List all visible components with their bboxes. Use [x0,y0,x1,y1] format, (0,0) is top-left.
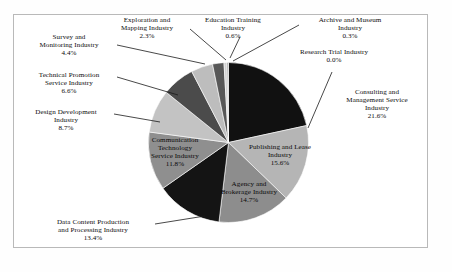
label-line-1: Consulting and [355,88,399,96]
label-line-1: Design Development [35,108,96,116]
label-percent: 0.0% [282,56,386,64]
chart-canvas: Exploration and Mapping Industry 2.3% Ed… [0,0,452,272]
label-consulting-management: Consulting and Management Service Indust… [330,88,424,120]
label-line-2: Service Industry [45,79,93,87]
label-line-2: Technology [158,144,192,152]
label-line-2: Management Service [346,96,407,104]
label-line-1: Archive and Museum [319,16,382,24]
label-line-1: Communication [152,136,199,144]
label-percent: 0.3% [301,32,399,40]
label-line-1: Publishing and Lease [249,143,311,151]
label-line-2: Monitoring Industry [39,41,98,49]
label-percent: 21.6% [330,112,424,120]
label-percent: 15.6% [236,159,324,167]
label-line-1: Exploration and [124,16,171,24]
label-publishing-lease: Publishing and Lease Industry 15.6% [236,143,324,167]
label-line-1: Data Content Production [57,218,129,226]
label-line-1: Education Training [205,16,261,24]
label-percent: 2.3% [105,32,189,40]
label-agency-brokerage: Agency and Brokerage Industry 14.7% [203,180,295,204]
label-line-3: Industry [365,104,389,112]
label-line-2: and Processing Industry [58,226,128,234]
label-percent: 14.7% [203,196,295,204]
label-line-1: Research Trial Industry [300,48,368,56]
label-percent: 13.4% [33,234,153,242]
label-education-training: Education Training Industry 0.6% [191,16,275,40]
label-survey-monitoring: Survey and Monitoring Industry 4.4% [22,33,116,57]
label-line-2: Brokerage Industry [221,188,277,196]
label-research-trial: Research Trial Industry 0.0% [282,48,386,64]
label-line-2: Mapping Industry [121,24,173,32]
label-percent: 4.4% [22,49,116,57]
label-design-development: Design Development Industry 8.7% [19,108,113,132]
label-line-2: Industry [54,116,78,124]
label-communication-technology: Communication Technology Service Industr… [134,136,216,168]
label-percent: 6.6% [22,87,116,95]
label-line-2: Industry [338,24,362,32]
label-exploration-mapping: Exploration and Mapping Industry 2.3% [105,16,189,40]
label-percent: 8.7% [19,124,113,132]
label-technical-promotion: Technical Promotion Service Industry 6.6… [22,71,116,95]
label-percent: 0.6% [191,32,275,40]
label-data-content-production: Data Content Production and Processing I… [33,218,153,242]
label-line-2: Industry [221,24,245,32]
label-line-1: Technical Promotion [39,71,100,79]
label-line-3: Service Industry [151,152,199,160]
label-line-2: Industry [268,151,292,159]
label-line-1: Agency and [232,180,267,188]
label-percent: 11.8% [134,160,216,168]
label-line-1: Survey and [53,33,86,41]
label-archive-museum: Archive and Museum Industry 0.3% [301,16,399,40]
